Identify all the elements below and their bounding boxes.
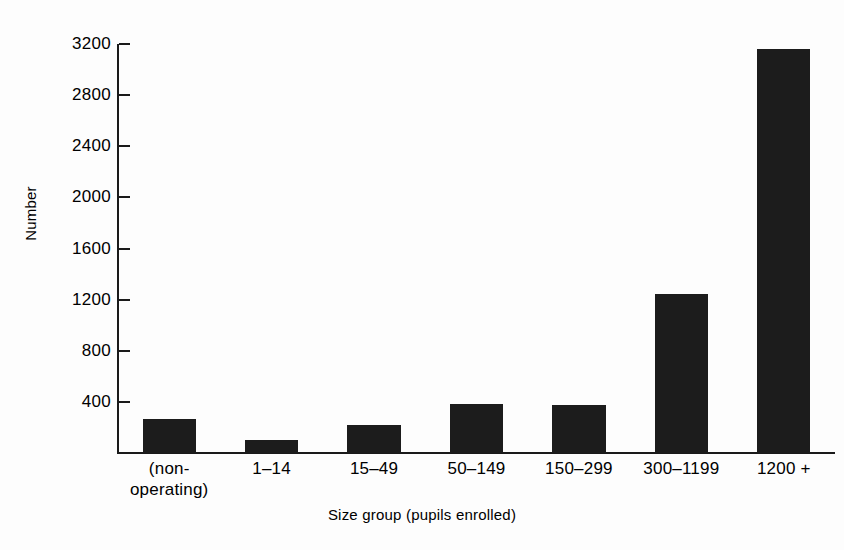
x-axis-tick-label: 1–14 bbox=[220, 458, 322, 479]
x-axis-tick-label: (non- operating) bbox=[118, 458, 220, 500]
bar bbox=[450, 404, 503, 453]
y-axis-tick-label: 1600 bbox=[72, 239, 111, 258]
bar bbox=[245, 440, 298, 453]
x-axis-tick-label: 150–299 bbox=[528, 458, 630, 479]
bar bbox=[552, 405, 605, 453]
y-axis-tick-label: 1200 bbox=[72, 290, 111, 309]
bar-chart-figure: 400800120016002000240028003200 (non- ope… bbox=[0, 0, 844, 550]
y-axis-tick-label: 800 bbox=[82, 341, 111, 360]
x-axis-tick-label: 300–1199 bbox=[630, 458, 732, 479]
x-axis-title: Size group (pupils enrolled) bbox=[0, 506, 844, 523]
bars-layer bbox=[118, 44, 835, 453]
y-axis-tick-label: 3200 bbox=[72, 34, 111, 53]
x-axis-tick-label: 1200 + bbox=[733, 458, 835, 479]
bar bbox=[143, 419, 196, 453]
y-axis-tick-label: 400 bbox=[82, 392, 111, 411]
x-axis-tick-label: 50–149 bbox=[425, 458, 527, 479]
bar bbox=[655, 294, 708, 453]
y-axis-tick-label: 2400 bbox=[72, 136, 111, 155]
bar bbox=[347, 425, 400, 453]
x-axis-tick-label: 15–49 bbox=[323, 458, 425, 479]
y-axis-tick-label: 2000 bbox=[72, 187, 111, 206]
y-axis-tick-label: 2800 bbox=[72, 85, 111, 104]
bar bbox=[757, 49, 810, 453]
y-axis-title: Number bbox=[22, 169, 39, 259]
